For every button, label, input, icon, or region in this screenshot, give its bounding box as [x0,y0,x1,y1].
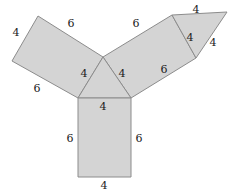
label-left-arm-top-long: 6 [68,18,75,29]
label-rect-left: 6 [67,133,74,144]
label-rect-right: 6 [136,133,143,144]
label-left-arm-outer-short: 4 [13,27,20,38]
label-left-arm-bottom-long: 6 [34,83,41,94]
label-center-triangle-right: 4 [119,68,126,79]
label-flap-left: 4 [187,32,194,43]
net-diagram-canvas [0,0,228,191]
label-flap-top: 4 [193,4,200,15]
label-right-arm-top-long: 6 [133,18,140,29]
label-flap-right: 4 [210,37,217,48]
label-right-arm-bottom-long: 6 [161,64,168,75]
geometry-figure: 4 6 6 4 4 4 6 6 4 4 4 6 6 4 [0,0,228,191]
label-center-triangle-left: 4 [81,68,88,79]
label-center-triangle-base: 4 [100,101,107,112]
label-rect-bottom: 4 [101,180,108,191]
